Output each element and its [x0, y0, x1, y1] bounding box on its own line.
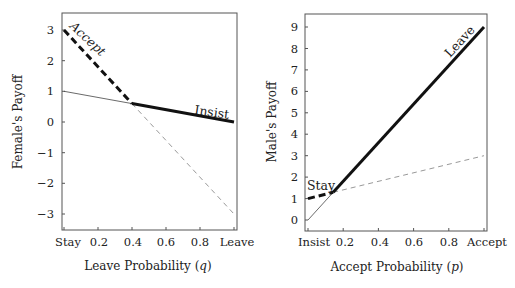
y-tick-label: −3 — [37, 207, 54, 221]
x-tick-label: Accept — [466, 235, 507, 249]
y-tick-label: −2 — [37, 176, 54, 190]
x-tick-label: 0.6 — [405, 235, 423, 249]
insist-annotation: Insist — [194, 102, 231, 122]
y-tick-label: 9 — [291, 20, 298, 34]
y-tick-label: 7 — [291, 63, 298, 77]
y-tick-label: −1 — [37, 146, 54, 160]
x-tick-label: 0.4 — [371, 235, 389, 249]
y-axis-label: Female's Payoff — [11, 73, 25, 169]
x-tick-label: Leave — [220, 235, 255, 249]
x-tick-label: 0.2 — [90, 235, 108, 249]
x-tick-label: 0.8 — [191, 235, 209, 249]
x-tick-label: 0.4 — [124, 235, 142, 249]
figure: 3 2 1 0 −1 −2 −3 Stay 0.2 0.4 0.6 0.8 Le… — [0, 0, 515, 288]
x-tick-label: 0.2 — [336, 235, 354, 249]
stay-dominated-line — [333, 156, 484, 193]
x-tick-label: Stay — [55, 235, 81, 249]
x-tick-label: Insist — [298, 235, 330, 249]
leave-best-response-line — [333, 27, 484, 192]
y-axis-label: Male's Payoff — [265, 80, 279, 162]
x-axis-label: Accept Probability (p) — [329, 260, 463, 274]
y-tick-label: 1 — [47, 84, 54, 98]
y-tick-label: 2 — [47, 54, 54, 68]
stay-annotation: Stay — [307, 178, 336, 193]
y-tick-label: 2 — [291, 170, 298, 184]
x-tick-label: 0.6 — [157, 235, 175, 249]
x-tick-labels: Stay 0.2 0.4 0.6 0.8 Leave — [55, 235, 254, 249]
stay-best-response-line — [308, 192, 333, 198]
female-payoff-chart: 3 2 1 0 −1 −2 −3 Stay 0.2 0.4 0.6 0.8 Le… — [11, 13, 254, 273]
x-axis-label: Leave Probability (q) — [84, 259, 211, 273]
y-tick-label: 5 — [291, 106, 298, 120]
y-tick-label: 1 — [291, 192, 298, 206]
x-tick-labels: Insist 0.2 0.4 0.6 0.8 Accept — [298, 235, 507, 249]
y-tick-label: 6 — [291, 84, 298, 98]
male-payoff-chart: 0 1 2 3 4 5 6 7 8 9 Insist 0.2 0.4 0.6 0… — [265, 14, 507, 274]
y-tick-label: 4 — [291, 127, 298, 141]
y-tick-labels: 0 1 2 3 4 5 6 7 8 9 — [291, 20, 298, 227]
insist-dominated-line — [64, 91, 132, 103]
y-tick-label: 3 — [291, 149, 298, 163]
y-tick-label: 3 — [47, 23, 54, 37]
y-tick-label: 0 — [47, 115, 54, 129]
y-tick-label: 0 — [291, 213, 298, 227]
x-tick-label: 0.8 — [440, 235, 458, 249]
y-tick-labels: 3 2 1 0 −1 −2 −3 — [37, 23, 54, 221]
y-tick-label: 8 — [291, 42, 298, 56]
